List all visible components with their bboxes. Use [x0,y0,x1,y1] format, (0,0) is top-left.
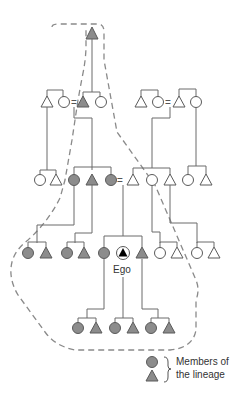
lineage-female-gen3 [106,175,117,186]
female-gen2 [153,97,164,108]
legend-label-line2: the lineage [176,369,225,380]
lineage-male-gen3 [86,174,98,185]
male-gen3 [164,174,176,185]
female-gen4 [192,248,203,259]
male-gen3 [200,174,212,185]
ego-label: Ego [113,264,131,275]
male-gen2 [173,96,185,107]
legend-brace [164,357,171,382]
legend-female-icon [147,357,158,368]
lineage-male-gen2 [77,96,89,107]
lineage-male-gen4 [40,247,52,258]
lineage-female-gen5 [110,323,121,334]
legend-label-line1: Members of [176,356,229,367]
female-gen3 [183,175,194,186]
female-gen3 [35,175,46,186]
male-gen3 [127,174,139,185]
female-gen3 [147,175,158,186]
male-gen4 [171,247,183,258]
female-gen2 [59,97,70,108]
lineage-female-gen5 [146,323,157,334]
lineage-male-gen1 [86,27,98,39]
male-gen4 [208,247,220,258]
lineage-male-gen5 [127,322,139,333]
female-gen2 [96,97,107,108]
lineage-female-gen3 [69,175,80,186]
female-gen4 [155,248,166,259]
marriage-sign: = [117,175,123,186]
lineage-male-gen4 [78,247,90,258]
marriage-sign: = [71,97,77,108]
lineage-female-gen5 [73,323,84,334]
lineage-male-gen5 [90,322,102,333]
lineage-female-gen4 [23,248,34,259]
kinship-diagram: = = = [0,0,236,393]
lineage-male-gen5 [163,322,175,333]
legend-male-icon [146,370,158,381]
marriage-sign: = [165,97,171,108]
male-gen2 [41,96,53,107]
male-gen2 [135,96,147,107]
female-gen2 [191,97,202,108]
lineage-male-gen4 [136,247,148,258]
lineage-female-gen4 [99,248,110,259]
male-gen3 [50,174,62,185]
lineage-female-gen4 [62,248,73,259]
